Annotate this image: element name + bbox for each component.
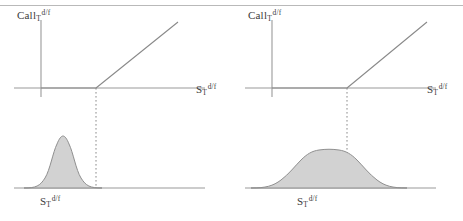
density-axis-label: STd/f — [297, 196, 317, 207]
call-payoff-line — [272, 22, 427, 88]
panel-high-volatility: CallTd/f STd/f STd/f — [231, 0, 463, 221]
panel-low-volatility: CallTd/f STd/f STd/f — [0, 0, 232, 221]
y-axis-label: CallTd/f — [17, 10, 50, 21]
option-payoff-figure: CallTd/f STd/f STd/f CallTd/f STd/f STd/… — [0, 0, 463, 221]
panel-left-graphics — [0, 0, 232, 221]
call-payoff-line — [41, 22, 178, 88]
x-axis-label: STd/f — [427, 84, 447, 95]
x-axis-label: STd/f — [196, 84, 216, 95]
y-axis-label: CallTd/f — [248, 10, 281, 21]
panel-right-graphics — [231, 0, 463, 221]
density-axis-label: STd/f — [40, 196, 60, 207]
density-curve-wide — [251, 149, 407, 188]
density-curve-narrow — [24, 136, 102, 188]
